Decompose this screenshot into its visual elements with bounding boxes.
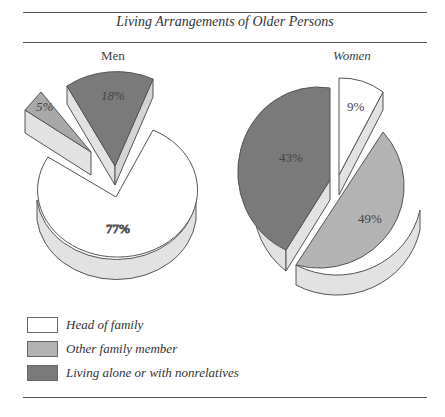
- legend-label: Other family member: [66, 341, 177, 357]
- men-pie: 77% 5% 18%: [25, 72, 198, 280]
- legend-label: Head of family: [66, 317, 143, 333]
- legend-swatch-white: [27, 317, 58, 333]
- legend-swatch-dark-gray: [27, 365, 58, 381]
- women-pie: 9% 49% 43%: [238, 78, 420, 295]
- women-living-alone-slice: [238, 87, 330, 250]
- legend-label: Living alone or with nonrelatives: [66, 365, 239, 381]
- women-other-family-label: 49%: [358, 211, 382, 226]
- women-living-alone-label: 43%: [279, 150, 303, 165]
- legend-item-head-of-family: Head of family: [27, 313, 239, 337]
- legend-swatch-light-gray: [27, 341, 58, 357]
- legend: Head of family Other family member Livin…: [27, 313, 239, 385]
- men-other-family-label: 5%: [36, 99, 54, 114]
- men-living-alone-label: 18%: [101, 88, 125, 103]
- legend-item-other-family-member: Other family member: [27, 337, 239, 361]
- men-head-of-family-label: 77%: [106, 221, 130, 236]
- legend-item-living-alone: Living alone or with nonrelatives: [27, 361, 239, 385]
- women-head-of-family-label: 9%: [347, 99, 365, 114]
- bottom-rule: [23, 397, 427, 398]
